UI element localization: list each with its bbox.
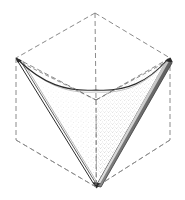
concave-tetrahedron-diagram: Concave tetrahedral solid inscribed in a…	[0, 0, 185, 200]
figure-container: Concave tetrahedral solid inscribed in a…	[0, 0, 185, 200]
